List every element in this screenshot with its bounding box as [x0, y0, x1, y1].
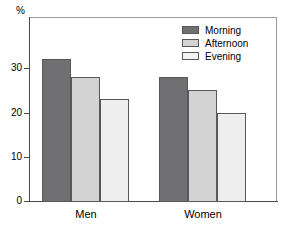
bar-women-afternoon: [188, 90, 217, 202]
legend-item-evening: Evening: [182, 50, 277, 62]
y-tick-0: [24, 201, 29, 202]
y-tick-30: [24, 68, 29, 69]
bar-chart: % 30 20 10 0 Men Women Morning Afternoon: [0, 0, 286, 235]
bar-men-evening: [100, 99, 129, 202]
legend-item-morning: Morning: [182, 24, 277, 36]
legend-label-evening: Evening: [205, 51, 241, 62]
legend-label-morning: Morning: [205, 25, 241, 36]
y-axis-label-10: 10: [0, 152, 22, 162]
x-axis-label-men: Men: [56, 208, 116, 220]
bar-men-afternoon: [71, 77, 100, 202]
bar-men-morning: [42, 59, 71, 202]
legend-swatch-morning-icon: [182, 26, 199, 34]
legend-swatch-afternoon-icon: [182, 39, 199, 47]
x-axis-label-women: Women: [173, 208, 233, 220]
bar-women-evening: [217, 113, 246, 202]
legend-item-afternoon: Afternoon: [182, 37, 277, 49]
bar-women-morning: [159, 77, 188, 202]
legend-label-afternoon: Afternoon: [205, 38, 248, 49]
y-axis-label-20: 20: [0, 108, 22, 118]
y-axis-label-0: 0: [0, 196, 22, 206]
y-axis-labels: 30 20 10 0: [0, 0, 22, 235]
y-axis-label-30: 30: [0, 63, 22, 73]
legend: Morning Afternoon Evening: [182, 24, 277, 63]
y-axis-line: [29, 17, 30, 202]
y-tick-10: [24, 157, 29, 158]
legend-swatch-evening-icon: [182, 52, 199, 60]
y-tick-20: [24, 113, 29, 114]
